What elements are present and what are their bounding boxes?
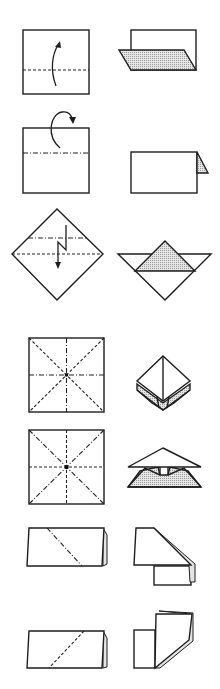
diagram-canvas bbox=[0, 0, 220, 689]
step-4-crease-pattern bbox=[29, 338, 104, 412]
origami-diagram: Origami folding sequence bbox=[0, 0, 220, 689]
shaded-tab bbox=[197, 152, 208, 173]
folded-rectangle bbox=[27, 631, 104, 668]
step-6-instruction bbox=[27, 528, 107, 566]
step-3-result bbox=[118, 241, 211, 300]
step-7-result bbox=[134, 611, 193, 668]
step-2 bbox=[23, 112, 208, 193]
lower-flap bbox=[154, 566, 191, 585]
center-point bbox=[64, 465, 68, 469]
step-2-instruction-square bbox=[23, 112, 89, 193]
step-5-result-waterbomb-base bbox=[128, 448, 201, 487]
folded-rectangle bbox=[27, 528, 104, 566]
step-2-result bbox=[131, 152, 208, 193]
step-1-result bbox=[119, 30, 196, 70]
folded-upper-part bbox=[134, 528, 191, 565]
paper-square bbox=[23, 128, 89, 193]
raised-flap bbox=[155, 614, 192, 668]
shaded-flap bbox=[119, 50, 196, 70]
step-7 bbox=[27, 611, 193, 668]
step-7-instruction bbox=[27, 631, 107, 668]
arrowhead-icon bbox=[69, 117, 76, 124]
step-1-instruction-square bbox=[23, 30, 89, 94]
left-panel bbox=[134, 630, 155, 668]
step-6-result bbox=[134, 528, 195, 585]
step-4-result-square-base bbox=[137, 356, 190, 410]
step-6 bbox=[27, 528, 195, 585]
step-5 bbox=[29, 430, 201, 504]
center-point bbox=[65, 373, 69, 377]
step-5-crease-pattern bbox=[29, 430, 104, 504]
shaded-inner-layers bbox=[128, 467, 201, 487]
step-1 bbox=[23, 30, 196, 94]
step-3 bbox=[12, 209, 211, 300]
top-triangle-flap bbox=[128, 448, 201, 467]
folded-rectangle bbox=[131, 152, 197, 193]
step-3-instruction-diamond bbox=[12, 209, 103, 300]
step-4 bbox=[29, 338, 190, 412]
